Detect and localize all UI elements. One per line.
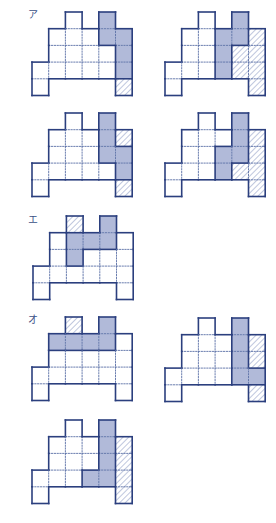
hatched-cell [249, 79, 266, 96]
shaded-cell [215, 163, 232, 180]
grid-cell [198, 130, 215, 147]
grid-cell [32, 79, 49, 96]
grid-cell [49, 62, 66, 79]
grid-cell [116, 384, 133, 401]
shaded-cell [116, 146, 133, 163]
grid-cell [99, 163, 116, 180]
grid-cell [165, 368, 182, 385]
grid-cell [65, 113, 82, 130]
figure-a-1 [30, 10, 134, 98]
grid-cell [165, 385, 182, 402]
hatched-cell [249, 62, 266, 79]
shaded-cell [99, 29, 116, 46]
grid-cell [182, 62, 199, 79]
grid-cell [49, 29, 66, 46]
shaded-cell [66, 249, 83, 266]
grid-cell [215, 130, 232, 147]
grid-cell [117, 249, 134, 266]
grid-cell [66, 266, 83, 283]
grid-cell [33, 283, 50, 300]
grid-cell [32, 487, 49, 504]
shaded-cell [116, 45, 133, 62]
hatched-cell [116, 470, 133, 487]
shaded-cell [82, 470, 99, 487]
shaded-cell [232, 368, 249, 385]
grid-cell [198, 62, 215, 79]
shaded-cell [99, 12, 116, 29]
grid-cell [65, 29, 82, 46]
grid-cell [198, 12, 215, 29]
shaded-cell [232, 29, 249, 46]
shaded-cell [232, 12, 249, 29]
grid-cell [32, 367, 49, 384]
shaded-cell [232, 351, 249, 368]
grid-cell [82, 350, 99, 367]
shaded-cell [66, 233, 83, 250]
puzzle-page: アエオ [0, 0, 276, 523]
grid-cell [198, 113, 215, 130]
shaded-cell [82, 334, 99, 351]
shaded-cell [215, 29, 232, 46]
grid-cell [165, 62, 182, 79]
grid-cell [198, 351, 215, 368]
hatched-cell [249, 130, 266, 147]
hatched-cell [249, 385, 266, 402]
grid-cell [99, 45, 116, 62]
shaded-cell [215, 45, 232, 62]
shaded-cell [232, 335, 249, 352]
figure-o-2 [163, 316, 267, 404]
grid-cell [117, 266, 134, 283]
grid-cell [198, 368, 215, 385]
hatched-cell [249, 335, 266, 352]
hatched-cell [249, 45, 266, 62]
grid-cell [49, 470, 66, 487]
hatched-cell [116, 487, 133, 504]
grid-cell [49, 437, 66, 454]
grid-cell [65, 146, 82, 163]
grid-cell [32, 180, 49, 197]
grid-cell [49, 367, 66, 384]
grid-cell [65, 12, 82, 29]
grid-cell [100, 266, 117, 283]
grid-cell [49, 130, 66, 147]
grid-cell [82, 437, 99, 454]
grid-cell [32, 384, 49, 401]
grid-cell [65, 453, 82, 470]
grid-cell [82, 62, 99, 79]
shaded-cell [100, 233, 117, 250]
grid-cell [165, 79, 182, 96]
figure-e [31, 214, 135, 302]
shaded-cell [232, 113, 249, 130]
grid-cell [49, 350, 66, 367]
grid-cell [50, 249, 67, 266]
grid-cell [182, 335, 199, 352]
figure-4 [163, 111, 267, 199]
shaded-cell [99, 470, 116, 487]
grid-cell [198, 318, 215, 335]
shaded-cell [232, 146, 249, 163]
grid-cell [99, 350, 116, 367]
grid-cell [49, 453, 66, 470]
grid-cell [116, 350, 133, 367]
grid-cell [198, 45, 215, 62]
figure-3 [30, 111, 134, 199]
grid-cell [49, 146, 66, 163]
hatched-cell [249, 29, 266, 46]
figure-o-1 [30, 315, 134, 403]
grid-cell [65, 130, 82, 147]
shaded-cell [99, 334, 116, 351]
figure-a-2 [163, 10, 267, 98]
grid-cell [49, 163, 66, 180]
grid-cell [65, 163, 82, 180]
grid-cell [82, 146, 99, 163]
grid-cell [99, 62, 116, 79]
shaded-cell [65, 334, 82, 351]
hatched-cell [116, 79, 133, 96]
shaded-cell [100, 216, 117, 233]
grid-cell [65, 420, 82, 437]
shaded-cell [116, 163, 133, 180]
grid-cell [215, 351, 232, 368]
hatched-cell [116, 130, 133, 147]
shaded-cell [99, 420, 116, 437]
grid-cell [215, 368, 232, 385]
